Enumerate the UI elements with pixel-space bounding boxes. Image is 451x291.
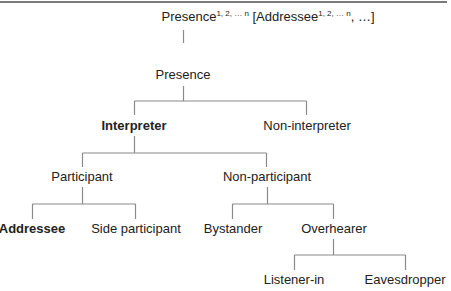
root-superscript-1: 1, 2, … n [216, 9, 248, 18]
node-interpreter: Interpreter [101, 118, 166, 134]
root-middle: [Addressee [249, 9, 318, 24]
root-superscript-2: 1, 2, … n [318, 9, 350, 18]
node-presence: Presence [156, 67, 211, 83]
tree-connectors [0, 0, 451, 291]
node-overhearer: Overhearer [301, 221, 367, 237]
node-non-interpreter: Non-interpreter [263, 118, 350, 134]
node-addressee: Addressee [0, 221, 65, 237]
node-side-participant: Side participant [91, 221, 181, 237]
node-eavesdropper: Eavesdropper [365, 272, 446, 288]
node-participant: Participant [51, 169, 112, 185]
node-bystander: Bystander [204, 221, 263, 237]
node-root: Presence1, 2, … n [Addressee1, 2, … n, …… [161, 9, 374, 25]
root-prefix: Presence [161, 9, 216, 24]
root-suffix: , …] [351, 9, 375, 24]
node-non-participant: Non-participant [223, 169, 311, 185]
node-listener-in: Listener-in [264, 272, 325, 288]
